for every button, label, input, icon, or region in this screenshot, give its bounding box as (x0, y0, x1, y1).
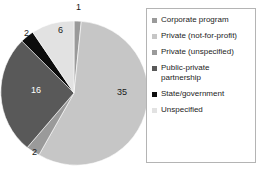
pie-data-label-unspecified: 6 (58, 26, 63, 35)
pie-data-label-state-government: 2 (24, 29, 29, 38)
legend-item-private-unspecified[interactable]: Private (unspecified) (152, 47, 251, 57)
legend-swatch-icon (152, 66, 157, 71)
legend-label: Corporate program (161, 15, 229, 25)
pie-svg (0, 0, 148, 171)
legend-item-state-government[interactable]: State/government (152, 89, 251, 99)
pie-plot-area: 1 35 2 16 2 6 (0, 0, 148, 171)
legend-swatch-icon (152, 34, 157, 39)
pie-data-label-public-private-partnership: 16 (31, 86, 41, 95)
legend: Corporate program Private (not-for-profi… (146, 8, 256, 163)
pie-data-label-private-not-for-profit: 35 (117, 88, 127, 97)
pie-data-label-corporate-program: 1 (76, 3, 81, 12)
legend-label: Private (not-for-profit) (161, 31, 237, 41)
pie-data-label-private-unspecified: 2 (32, 148, 37, 157)
legend-swatch-icon (152, 92, 157, 97)
legend-label: Private (unspecified) (161, 47, 234, 57)
pie-chart-figure: 1 35 2 16 2 6 Corporate program Private … (0, 0, 261, 171)
legend-label: Unspecified (161, 105, 203, 115)
legend-label: Public-private partnership (161, 63, 209, 83)
legend-item-corporate-program[interactable]: Corporate program (152, 15, 251, 25)
legend-label: State/government (161, 89, 224, 99)
legend-item-unspecified[interactable]: Unspecified (152, 105, 251, 115)
legend-swatch-icon (152, 108, 157, 113)
legend-swatch-icon (152, 18, 157, 23)
legend-swatch-icon (152, 50, 157, 55)
legend-item-private-not-for-profit[interactable]: Private (not-for-profit) (152, 31, 251, 41)
legend-item-public-private-partnership[interactable]: Public-private partnership (152, 63, 251, 83)
